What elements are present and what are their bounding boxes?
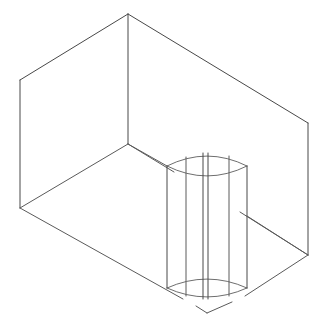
cylinder-top-rim-front — [167, 166, 247, 176]
box-edge-floor-front-left-tail — [196, 306, 207, 313]
box-edge-floor-front-right — [207, 302, 232, 313]
cylinder-bottom-rim-back — [167, 279, 247, 288]
cylinder-bottom-rim-front — [167, 288, 247, 297]
box-edge-top-rim-back-left — [20, 14, 128, 80]
box-edge-top-rim-back-right — [128, 14, 308, 123]
wireframe-illustration — [0, 0, 329, 328]
box-edge-floor-front-right-tail — [245, 255, 308, 296]
open-box-group — [20, 14, 308, 313]
crease-floor-diagonal-right — [247, 216, 308, 255]
crease-back-corner-to-cylinder — [128, 144, 167, 166]
cylinder-top-rim-back — [167, 156, 247, 166]
box-edge-floor-back-left — [20, 144, 128, 208]
cylinder-group — [167, 153, 247, 299]
box-edge-floor-front-left — [20, 208, 183, 299]
drawing-canvas — [0, 0, 329, 328]
